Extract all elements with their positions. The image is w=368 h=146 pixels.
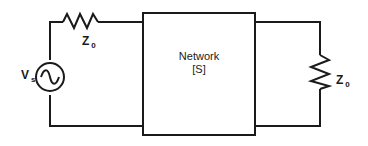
source-voltage-label: Vs [21, 68, 35, 82]
source-impedance-label: Z0 [82, 34, 96, 48]
source-resistor-icon [63, 14, 98, 28]
network-label: Network [S] [143, 50, 255, 76]
network-s-matrix: [S] [143, 63, 255, 76]
load-resistor-icon [311, 55, 329, 89]
load-impedance-label: Z0 [336, 73, 350, 87]
ac-source-icon [36, 63, 64, 91]
network-title: Network [143, 50, 255, 63]
load-loop-wires [255, 22, 320, 126]
